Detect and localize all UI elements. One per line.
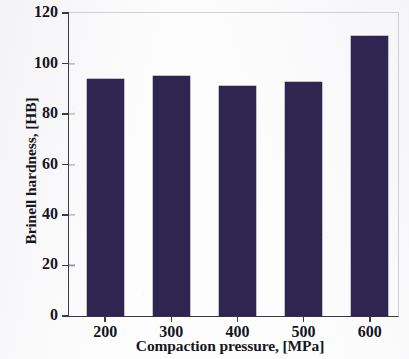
y-tick-mark-120 <box>62 12 69 14</box>
y-tick-label-40: 40 <box>42 205 58 223</box>
bar-500 <box>285 82 322 316</box>
x-axis-title: Compaction pressure, [MPa] <box>60 337 400 355</box>
y-tick-mark-40 <box>62 214 69 216</box>
y-tick-mark-20 <box>62 265 69 267</box>
y-tick-label-20: 20 <box>42 255 58 273</box>
y-axis-title: Brinell hardness, [HB] <box>22 46 40 296</box>
bar-300 <box>153 76 190 316</box>
y-tick-mark-100 <box>62 63 69 65</box>
y-tick-label-100: 100 <box>34 54 58 72</box>
bar-200 <box>87 79 124 316</box>
bar-chart-figure: Brinell hardness, [HB] 0 20 40 60 80 100 <box>0 0 409 359</box>
x-tick-mark-600 <box>369 316 371 322</box>
y-tick-label-60: 60 <box>42 155 58 173</box>
bar-400 <box>219 86 256 316</box>
y-tick-label-120: 120 <box>34 3 58 21</box>
x-tick-mark-500 <box>303 316 305 322</box>
y-tick-mark-60 <box>62 164 69 166</box>
x-tick-mark-300 <box>171 316 173 322</box>
bar-series <box>69 13 398 316</box>
y-tick-label-80: 80 <box>42 104 58 122</box>
y-tick-mark-80 <box>62 113 69 115</box>
bar-600 <box>351 36 388 316</box>
y-tick-mark-0 <box>62 315 69 317</box>
x-tick-mark-200 <box>104 316 106 322</box>
plot-area: 0 20 40 60 80 100 120 <box>68 12 399 317</box>
y-tick-label-0: 0 <box>50 306 58 324</box>
x-tick-mark-400 <box>237 316 239 322</box>
